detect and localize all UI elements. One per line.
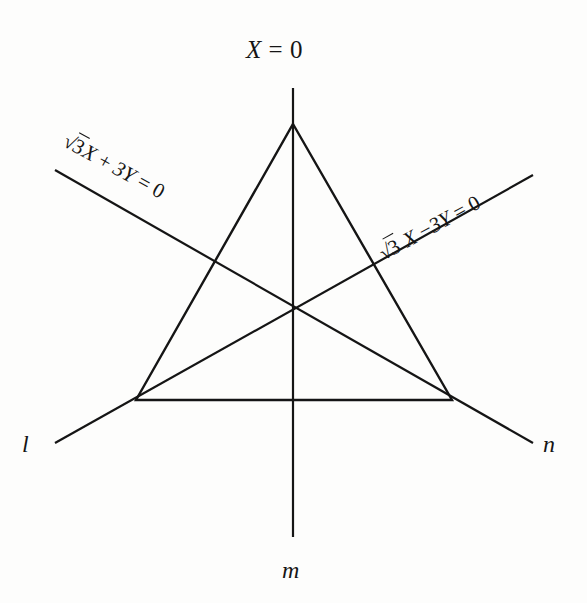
label-axis-n: n: [543, 432, 555, 456]
label-equation-x-equals-zero: X = 0: [246, 37, 303, 62]
geometry-diagram: [0, 0, 587, 603]
label-equals-sign: [262, 36, 269, 63]
label-axis-m: m: [282, 558, 299, 582]
label-x-term: X: [246, 36, 262, 63]
label-top-rhs: 0: [290, 36, 303, 63]
label-axis-l: l: [22, 432, 29, 456]
mirror-lines: [55, 88, 533, 537]
label-top-operator: =: [269, 36, 284, 63]
figure-canvas: X = 0 √3X + 3Y = 0 √3 X −3Y = 0 l n m: [0, 0, 587, 603]
